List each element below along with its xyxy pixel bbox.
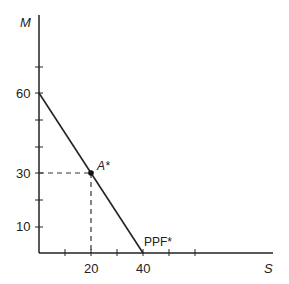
y-tick-60: 60 bbox=[16, 87, 30, 100]
x-axis-label: S bbox=[264, 262, 273, 275]
y-tick-10: 10 bbox=[16, 220, 30, 233]
y-axis-label: M bbox=[20, 16, 31, 29]
x-tick-20: 20 bbox=[84, 262, 98, 275]
y-tick-30: 30 bbox=[16, 167, 30, 180]
point-a-star bbox=[88, 170, 94, 176]
x-tick-40: 40 bbox=[136, 262, 150, 275]
point-label: A* bbox=[97, 160, 110, 172]
curve-label: PPF* bbox=[144, 236, 172, 248]
